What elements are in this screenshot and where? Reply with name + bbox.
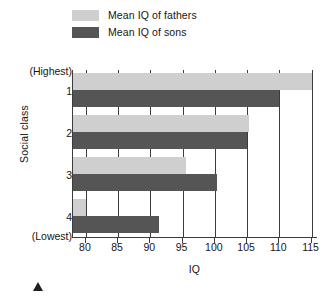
- bar: [73, 132, 247, 149]
- plot-area: [72, 70, 317, 238]
- bar: [73, 73, 312, 90]
- legend-label-fathers: Mean IQ of fathers: [108, 10, 197, 21]
- chart-legend: Mean IQ of fathers Mean IQ of sons: [72, 9, 197, 38]
- x-tick-label: 85: [111, 241, 123, 253]
- y-axis-title: Social class: [18, 86, 30, 182]
- x-tick-label: 95: [176, 241, 188, 253]
- legend-item-sons: Mean IQ of sons: [72, 26, 197, 38]
- y-tick-label: (Lowest): [32, 230, 72, 242]
- legend-swatch-fathers: [72, 10, 99, 21]
- legend-swatch-sons: [72, 27, 99, 38]
- x-tick-label: 115: [302, 241, 319, 253]
- x-tick-label: 90: [144, 241, 156, 253]
- x-tick-label: 110: [270, 241, 287, 253]
- plot-inner: [73, 70, 317, 237]
- bar: [73, 115, 249, 132]
- gridline: [312, 70, 313, 238]
- gridline: [279, 70, 280, 238]
- x-tick-label: 105: [237, 241, 255, 253]
- legend-item-fathers: Mean IQ of fathers: [72, 9, 197, 21]
- y-tick-label: (Highest): [29, 65, 72, 77]
- chart-figure: Mean IQ of fathers Mean IQ of sons Socia…: [0, 0, 326, 299]
- legend-label-sons: Mean IQ of sons: [108, 27, 187, 38]
- bar: [73, 174, 217, 191]
- x-tick-label: 100: [205, 241, 223, 253]
- triangle-marker-icon: [33, 282, 43, 291]
- bar: [73, 216, 159, 233]
- bar: [73, 157, 186, 174]
- bar: [73, 90, 279, 107]
- bar: [73, 199, 86, 216]
- x-tick-label: 80: [79, 241, 91, 253]
- x-axis-title: IQ: [72, 263, 317, 275]
